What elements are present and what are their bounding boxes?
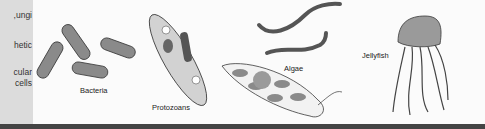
algae-label: Algae [284,64,303,73]
algae-icon [259,4,340,53]
protozoans-label: Protozoans [152,103,190,112]
microorganisms-illustration [0,0,485,124]
bacteria-icon [35,22,137,80]
protozoan-icon [140,8,216,112]
bacteria-label: Bacteria [80,86,108,95]
figure-page: ungi, hetic cular cells [0,0,485,124]
bottom-border [0,124,485,129]
jellyfish-label: Jellyfish [362,51,389,60]
euglena-icon [222,64,342,117]
jellyfish-icon [393,16,448,115]
